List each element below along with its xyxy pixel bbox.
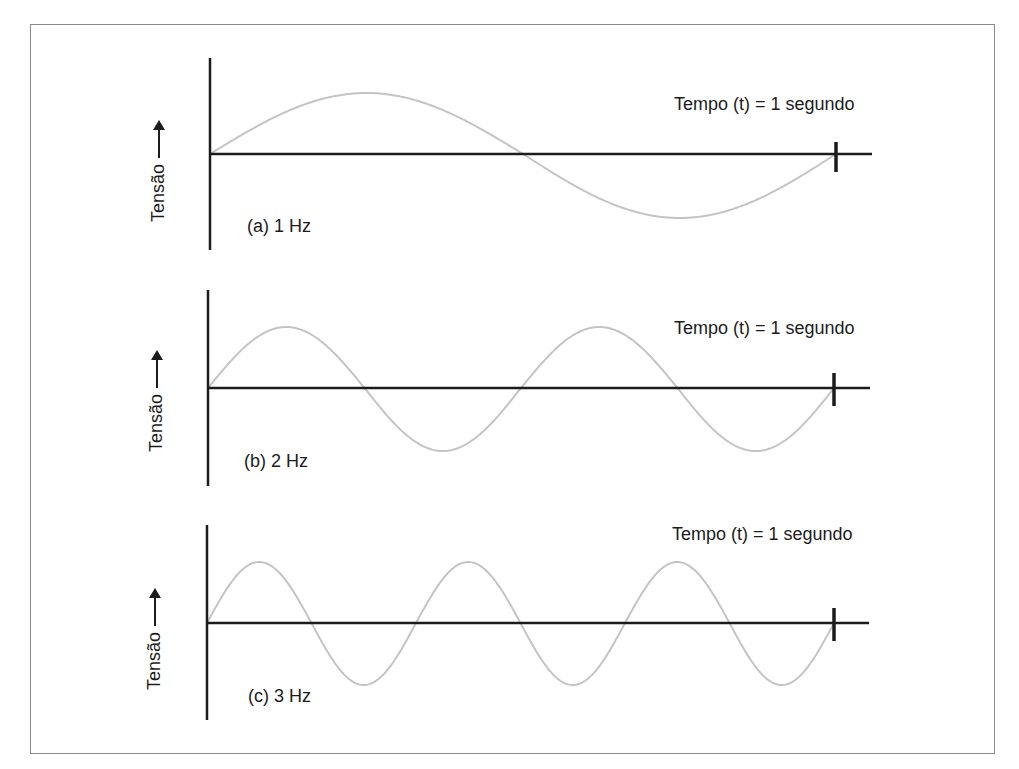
up-arrow-icon: [158, 122, 160, 158]
panel-a-time-label: Tempo (t) = 1 segundo: [674, 94, 855, 115]
panel-a-y-axis-label: Tensão: [148, 122, 169, 222]
y-axis-label-text: Tensão: [146, 394, 167, 452]
panel-c-caption: (c) 3 Hz: [248, 686, 311, 707]
panel-c-time-label: Tempo (t) = 1 segundo: [672, 524, 853, 545]
panel-a-caption: (a) 1 Hz: [247, 216, 311, 237]
up-arrow-icon: [156, 352, 158, 388]
y-axis-label-text: Tensão: [148, 164, 169, 222]
y-axis-label-text: Tensão: [144, 632, 165, 690]
panel-b-caption: (b) 2 Hz: [244, 451, 308, 472]
panel-b-y-axis-label: Tensão: [146, 352, 167, 452]
panel-b-time-label: Tempo (t) = 1 segundo: [674, 318, 855, 339]
panel-c-y-axis-label: Tensão: [144, 590, 165, 690]
up-arrow-icon: [154, 590, 156, 626]
